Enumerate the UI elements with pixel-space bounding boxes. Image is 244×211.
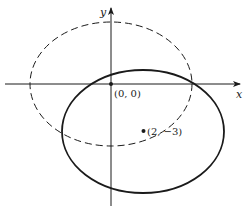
center-point xyxy=(142,129,146,133)
ellipse-diagram: x y (0, 0) (2, −3) xyxy=(0,0,244,211)
origin-point xyxy=(109,82,113,86)
y-axis-label: y xyxy=(99,6,107,19)
origin-label: (0, 0) xyxy=(114,88,141,99)
x-axis-label: x xyxy=(236,88,243,101)
center-label: (2, −3) xyxy=(147,126,182,137)
